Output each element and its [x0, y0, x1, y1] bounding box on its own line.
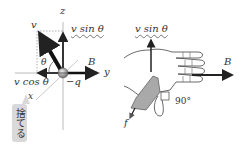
right-angle-mark [161, 92, 169, 100]
thumb-outline [154, 96, 163, 116]
force-f-label: f [124, 118, 128, 128]
v-vector-label: v [31, 20, 37, 30]
f-arrow [130, 108, 135, 118]
y-axis-label: y [104, 67, 110, 77]
theta-label: θ [41, 58, 46, 67]
v-cos-label: v cos θ [14, 77, 49, 87]
x-axis-label: x [28, 92, 33, 101]
arm-outline [124, 50, 150, 58]
hand-B-label: B [224, 57, 231, 67]
z-axis-label: z [60, 6, 65, 16]
hand-v-sin-label: v sin θ [135, 24, 168, 34]
v-sin-label: v sin θ [71, 24, 104, 34]
discard-note: 捨てる [12, 104, 27, 142]
angle-90-label: 90° [175, 97, 191, 106]
theta-arc [49, 61, 54, 73]
charge-label: −q [66, 77, 81, 87]
right-diagram [124, 40, 232, 118]
B-vector-label: B [88, 57, 95, 67]
